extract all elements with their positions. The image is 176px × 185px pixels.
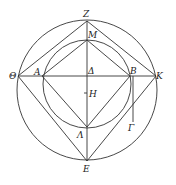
label-m: M [87,30,98,40]
label-k: K [155,71,164,81]
label-a: A [33,67,41,77]
label-theta: Θ [9,71,17,81]
geometric-diagram: Z M Θ A Δ B K H Λ Γ E [0,0,176,185]
label-b: B [129,66,137,76]
label-e: E [82,164,90,174]
label-z: Z [82,9,90,19]
label-gamma: Γ [127,123,135,133]
label-lambda: Λ [76,130,84,140]
label-delta: Δ [87,66,95,76]
label-h: H [88,89,97,99]
